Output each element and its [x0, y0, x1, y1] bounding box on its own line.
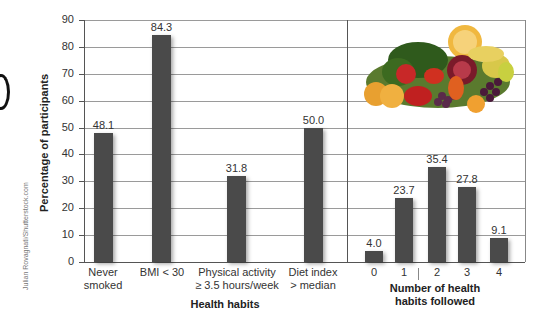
decorative-arc — [0, 74, 10, 110]
y-tick-label: 90 — [50, 13, 74, 25]
y-tick-label: 30 — [50, 174, 74, 186]
y-tick-label: 60 — [50, 94, 74, 106]
y-axis-line — [84, 20, 85, 262]
category-label: Diet index> median — [258, 266, 368, 292]
y-tick-label: 80 — [50, 40, 74, 52]
value-label: 27.8 — [442, 173, 492, 185]
category-label: 1 — [394, 266, 414, 279]
left-x-axis-title: Health habits — [160, 298, 290, 310]
category-separator — [418, 268, 419, 280]
right-x-axis-title: Number of health habits followed — [370, 282, 500, 308]
y-tick-label: 40 — [50, 147, 74, 159]
y-tick-label: 50 — [50, 121, 74, 133]
y-tick-mark — [79, 101, 84, 102]
y-tick-mark — [79, 235, 84, 236]
bar-left-0 — [94, 133, 113, 262]
y-axis-title: Percentage of participants — [38, 74, 50, 212]
bar-right-1 — [395, 198, 413, 262]
value-label: 84.3 — [137, 21, 187, 33]
category-label: 2 — [427, 266, 447, 279]
produce-photo — [358, 24, 518, 116]
y-tick-mark — [79, 74, 84, 75]
bar-left-1 — [152, 35, 171, 262]
value-label: 48.1 — [79, 119, 129, 131]
y-tick-mark — [79, 20, 84, 21]
category-label: 0 — [364, 266, 384, 279]
value-label: 4.0 — [349, 237, 399, 249]
category-label: 4 — [489, 266, 509, 279]
category-label-line1: Diet index — [258, 266, 368, 279]
y-tick-label: 70 — [50, 67, 74, 79]
category-label-line2: smoked — [48, 279, 158, 292]
bar-left-3 — [304, 128, 323, 262]
right-border — [525, 20, 526, 262]
value-label: 35.4 — [412, 153, 462, 165]
category-label: 3 — [457, 266, 477, 279]
y-tick-mark — [79, 47, 84, 48]
value-label: 23.7 — [379, 184, 429, 196]
y-tick-label: 20 — [50, 201, 74, 213]
y-tick-label: 10 — [50, 228, 74, 240]
value-label: 50.0 — [289, 114, 339, 126]
photo-credit: Julian Rovagnati/Shutterstock.com — [22, 182, 29, 290]
value-label: 31.8 — [212, 162, 262, 174]
value-label: 9.1 — [474, 224, 524, 236]
y-tick-mark — [79, 262, 84, 263]
right-x-axis-title-line2: habits followed — [370, 295, 500, 308]
bar-left-2 — [227, 176, 246, 262]
y-tick-mark — [79, 154, 84, 155]
x-axis-line — [84, 262, 525, 263]
panel-divider — [347, 20, 348, 262]
produce-photo-icon — [358, 24, 518, 116]
y-tick-mark — [79, 208, 84, 209]
y-tick-mark — [79, 181, 84, 182]
category-label-line2: > median — [258, 279, 368, 292]
right-x-axis-title-line1: Number of health — [370, 282, 500, 295]
bar-right-0 — [365, 251, 383, 262]
bar-right-4 — [490, 238, 508, 262]
